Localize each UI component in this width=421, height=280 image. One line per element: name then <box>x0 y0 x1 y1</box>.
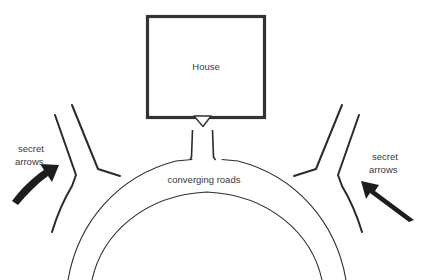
secret-arrow-left <box>12 164 59 205</box>
driveway-right-edge <box>213 130 216 160</box>
converging-roads-label: converging roads <box>168 174 241 185</box>
road-inner-arc <box>92 192 322 280</box>
driveway <box>190 130 216 160</box>
diagram-canvas: House converging roads secret arrows sec… <box>0 0 421 280</box>
house-outline: House <box>148 17 265 127</box>
diagram-svg: House converging roads secret arrows sec… <box>0 0 421 280</box>
secret-arrows-right-line2: arrows <box>369 164 398 175</box>
secret-arrow-right <box>361 181 414 222</box>
left-branch-outer <box>52 115 76 232</box>
right-branch-inner <box>294 105 342 176</box>
right-branch-road <box>294 105 362 232</box>
secret-arrow-right-shape <box>361 181 414 222</box>
secret-arrows-left-line1: secret <box>18 143 44 154</box>
secret-arrows-right-label: secret arrows <box>369 151 398 175</box>
left-branch-inner <box>72 105 120 176</box>
secret-arrows-left-line2: arrows <box>15 156 44 167</box>
house-door-notch <box>194 116 211 127</box>
secret-arrows-right-line1: secret <box>372 151 398 162</box>
secret-arrows-left-label: secret arrows <box>15 143 44 167</box>
house-label: House <box>192 61 219 72</box>
driveway-left-edge <box>190 130 193 160</box>
secret-arrow-left-shape <box>12 164 59 205</box>
left-branch-road <box>52 105 120 232</box>
right-branch-outer <box>338 115 362 232</box>
